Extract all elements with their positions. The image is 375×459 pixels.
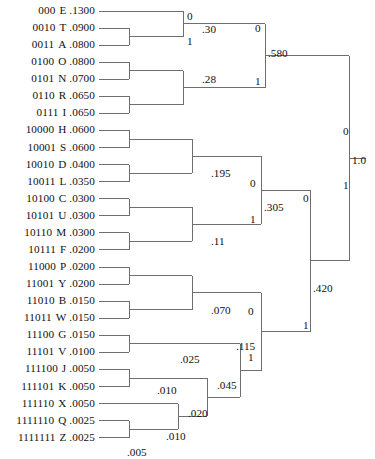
leaf-label: 10000H.0600 — [26, 124, 95, 135]
leaf-symbol: G — [58, 328, 66, 340]
leaf-symbol: A — [58, 38, 66, 50]
leaf-label: 000E.1300 — [38, 5, 95, 16]
leaf-probability: .0050 — [69, 362, 95, 374]
leaf-probability: .0050 — [69, 397, 95, 409]
internal-node-value: .010 — [157, 385, 177, 396]
leaf-probability: .0400 — [69, 158, 95, 170]
internal-node-value: .11 — [211, 236, 225, 247]
leaf-code: 11001 — [26, 277, 54, 289]
leaf-symbol: Y — [58, 277, 66, 289]
leaf-probability: .0100 — [69, 345, 95, 357]
leaf-code: 1111110 — [16, 414, 54, 426]
leaf-symbol: W — [56, 311, 67, 323]
leaf-symbol: X — [58, 397, 66, 409]
leaf-symbol: M — [56, 226, 66, 238]
leaf-code: 10100 — [26, 192, 54, 204]
leaf-probability: .0800 — [69, 38, 95, 50]
leaf-label: 11000P.0200 — [28, 261, 95, 272]
leaf-code: 0110 — [32, 89, 54, 101]
leaf-label: 1111110Q.0025 — [16, 415, 95, 426]
leaf-code: 0111 — [37, 106, 59, 118]
edge-bit-label: 1 — [248, 352, 254, 363]
leaf-probability: .0025 — [69, 431, 95, 443]
leaf-code: 0011 — [32, 38, 54, 50]
leaf-symbol: P — [60, 260, 66, 272]
leaf-code: 1111111 — [18, 431, 55, 443]
leaf-probability: .0300 — [69, 226, 95, 238]
leaf-symbol: F — [60, 243, 66, 255]
leaf-code: 000 — [38, 4, 55, 16]
leaf-code: 111100 — [25, 362, 58, 374]
leaf-code: 11101 — [27, 345, 55, 357]
leaf-code: 111110 — [22, 397, 55, 409]
leaf-label: 10110M.0300 — [24, 227, 95, 238]
leaf-symbol: R — [59, 89, 67, 101]
leaf-label: 10101U.0300 — [26, 210, 95, 221]
leaf-probability: .0650 — [69, 106, 95, 118]
edge-bit-label: 0 — [250, 178, 256, 189]
edge-bit-label: 0 — [303, 193, 309, 204]
edge-bit-label: 1 — [343, 180, 349, 191]
leaf-probability: .0800 — [69, 55, 95, 67]
leaf-probability: .0600 — [69, 141, 95, 153]
leaf-label: 10111F.0200 — [28, 244, 95, 255]
leaf-code: 10111 — [28, 243, 56, 255]
leaf-label: 11010B.0150 — [27, 295, 95, 306]
leaf-symbol: H — [58, 123, 66, 135]
leaf-symbol: O — [58, 55, 66, 67]
leaf-label: 10100C.0300 — [26, 193, 95, 204]
leaf-code: 11100 — [27, 328, 55, 340]
leaf-code: 11000 — [28, 260, 56, 272]
leaf-label: 11001Y.0200 — [26, 278, 95, 289]
leaf-probability: .0150 — [69, 328, 95, 340]
internal-node-value: .28 — [202, 74, 216, 85]
leaf-label: 0110R.0650 — [32, 90, 95, 101]
leaf-code: 111101 — [21, 380, 54, 392]
leaf-probability: .1300 — [69, 4, 95, 16]
leaf-label: 0011A.0800 — [32, 39, 95, 50]
edge-bit-label: 1 — [250, 214, 256, 225]
leaf-probability: .0050 — [69, 380, 95, 392]
leaf-symbol: S — [60, 141, 66, 153]
leaf-probability: .0200 — [69, 260, 95, 272]
internal-node-value: .070 — [211, 305, 231, 316]
edge-bit-label: 0 — [343, 126, 349, 137]
leaf-symbol: U — [58, 209, 66, 221]
edge-bit-label: 0 — [248, 306, 254, 317]
leaf-label: 10011L.0350 — [27, 176, 95, 187]
leaf-symbol: Z — [59, 431, 66, 443]
leaf-symbol: Q — [58, 414, 66, 426]
leaf-symbol: J — [62, 362, 66, 374]
leaf-label: 11101V.0100 — [27, 346, 96, 357]
leaf-label: 0101N.0700 — [31, 73, 95, 84]
leaf-code: 10001 — [28, 141, 56, 153]
leaf-label: 111110X.0050 — [22, 398, 95, 409]
internal-node-value: .305 — [264, 202, 284, 213]
leaf-probability: .0650 — [69, 89, 95, 101]
leaf-probability: .0150 — [69, 311, 95, 323]
leaf-label: 0010T.0900 — [33, 22, 95, 33]
edge-bit-label: 1 — [303, 320, 309, 331]
leaf-probability: .0900 — [69, 21, 95, 33]
leaf-probability: .0600 — [69, 123, 95, 135]
internal-node-value: .195 — [211, 168, 231, 179]
edge-bit-label: 1 — [187, 36, 193, 47]
internal-node-value: .010 — [166, 431, 186, 442]
leaf-code: 10000 — [26, 123, 54, 135]
leaf-label: 10001S.0600 — [28, 142, 95, 153]
leaf-symbol: D — [58, 158, 66, 170]
leaf-symbol: I — [63, 106, 67, 118]
internal-node-value: .30 — [202, 24, 216, 35]
leaf-symbol: N — [58, 72, 66, 84]
leaf-symbol: T — [59, 21, 66, 33]
leaf-code: 10011 — [27, 175, 55, 187]
internal-node-value: .020 — [188, 408, 208, 419]
edge-bit-label: 1 — [255, 76, 261, 87]
internal-node-value: .025 — [180, 354, 200, 365]
leaf-code: 0101 — [31, 72, 54, 84]
leaf-label: 1111111Z.0025 — [18, 432, 95, 443]
leaf-label: 111100J.0050 — [25, 363, 95, 374]
leaf-symbol: V — [58, 345, 66, 357]
leaf-probability: .0300 — [69, 209, 95, 221]
leaf-symbol: C — [59, 192, 67, 204]
